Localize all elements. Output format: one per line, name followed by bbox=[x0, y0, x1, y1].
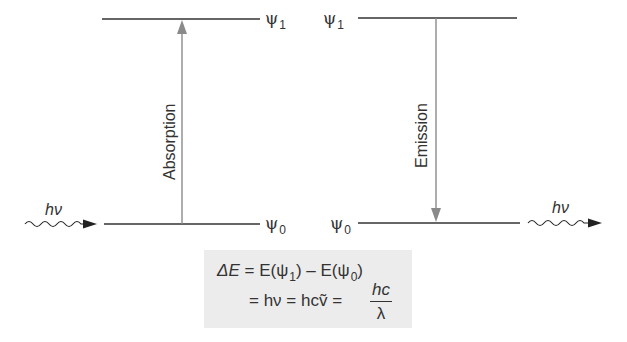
hc-over-lambda-fraction: hc λ bbox=[370, 280, 392, 324]
fraction-numerator: hc bbox=[370, 280, 392, 302]
incoming-photon-wave-icon bbox=[25, 222, 84, 227]
subscript: 0 bbox=[279, 223, 286, 237]
subscript: 0 bbox=[344, 223, 351, 237]
eq-hv-hc: = hν = hc bbox=[249, 291, 319, 310]
eq-part-b: ) – E(ψ bbox=[296, 261, 350, 280]
equation-line-2: = hν = hcṽ = bbox=[249, 292, 342, 309]
eq-equals: = bbox=[327, 291, 342, 310]
fraction-denominator: λ bbox=[370, 302, 392, 324]
incoming-photon-label: hν bbox=[45, 202, 62, 218]
eq-sub-1: 1 bbox=[289, 270, 296, 284]
delta-e: ΔE bbox=[217, 261, 240, 280]
eq-part-c: ) bbox=[357, 261, 363, 280]
eq-part-a: = E(ψ bbox=[244, 261, 288, 280]
right-upper-level-label: ψ1 bbox=[323, 10, 344, 27]
subscript: 1 bbox=[337, 18, 344, 32]
outgoing-photon-arrowhead-icon bbox=[588, 219, 602, 228]
equation-line-1: ΔE = E(ψ1) – E(ψ0) bbox=[217, 262, 363, 279]
outgoing-photon-wave-icon bbox=[528, 221, 588, 226]
emission-arrowhead-icon bbox=[431, 208, 441, 222]
psi-symbol: ψ bbox=[323, 8, 336, 28]
subscript: 1 bbox=[279, 18, 286, 32]
emission-label: Emission bbox=[414, 103, 430, 168]
left-lower-level-label: ψ0 bbox=[265, 215, 286, 232]
equation-box: ΔE = E(ψ1) – E(ψ0) = hν = hcṽ = hc λ bbox=[204, 250, 412, 328]
delta-e-text: ΔE bbox=[217, 261, 240, 280]
right-lower-level-label: ψ0 bbox=[330, 215, 351, 232]
absorption-label: Absorption bbox=[162, 104, 178, 181]
psi-symbol: ψ bbox=[265, 8, 278, 28]
absorption-arrowhead-icon bbox=[177, 20, 187, 34]
outgoing-photon-label: hν bbox=[552, 200, 569, 216]
left-upper-level-label: ψ1 bbox=[265, 10, 286, 27]
psi-symbol: ψ bbox=[330, 213, 343, 233]
eq-sub-0: 0 bbox=[351, 270, 358, 284]
psi-symbol: ψ bbox=[265, 213, 278, 233]
incoming-photon-arrowhead-icon bbox=[83, 220, 97, 229]
